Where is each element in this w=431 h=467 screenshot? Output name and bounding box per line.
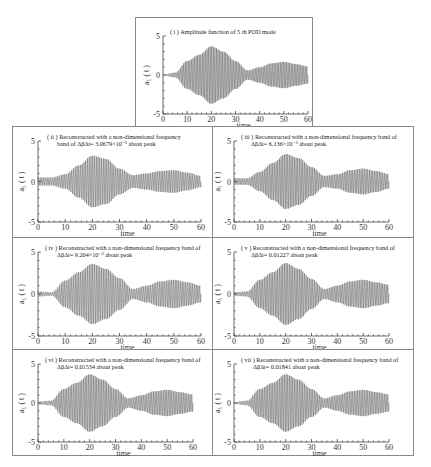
- x-tick-label: 40: [143, 337, 151, 346]
- x-tick-label: 50: [163, 443, 171, 452]
- y-axis-label: a₅ ( t ): [17, 171, 26, 191]
- y-tick-label: 0: [31, 178, 35, 187]
- x-axis-label: time: [312, 449, 327, 457]
- x-tick-label: 50: [170, 337, 178, 346]
- x-tick-label: 20: [282, 443, 290, 452]
- x-axis-label: time: [116, 449, 131, 457]
- x-tick-label: 40: [137, 443, 145, 452]
- x-tick-label: 0: [232, 443, 236, 452]
- x-tick-label: 0: [232, 337, 236, 346]
- y-tick-label: 5: [31, 137, 35, 146]
- x-tick-label: 60: [304, 115, 312, 124]
- signal-line: [163, 46, 308, 104]
- x-tick-label: 10: [256, 337, 264, 346]
- x-tick-label: 60: [197, 223, 205, 232]
- panel-v: ( v ) Reconstructed with a non-dimension…: [212, 237, 414, 350]
- signal-line: [38, 264, 201, 324]
- y-axis-label: a₅ ( t ): [17, 284, 26, 304]
- y-tick-label: 5: [227, 248, 231, 257]
- x-tick-label: 20: [282, 223, 290, 232]
- x-tick-label: 20: [207, 115, 215, 124]
- y-axis-label: a₅ ( t ): [142, 65, 151, 85]
- x-tick-label: 40: [333, 337, 341, 346]
- panel-i: ( i ) Amplitude function of 5 th POD mod…: [135, 17, 313, 127]
- y-tick-label: -5: [28, 438, 35, 447]
- x-tick-label: 40: [333, 443, 341, 452]
- x-tick-label: 40: [256, 115, 264, 124]
- y-tick-label: 0: [31, 399, 35, 408]
- x-tick-label: 50: [359, 443, 367, 452]
- plot-iii: 010203040506050-5timea₅ ( t ): [213, 127, 415, 239]
- panel-ii: ( ii ) Reconstructed with a non-dimensio…: [12, 126, 213, 238]
- y-tick-label: 0: [227, 399, 231, 408]
- signal-line: [234, 154, 389, 209]
- y-tick-label: 5: [31, 248, 35, 257]
- panel-iv: ( iv ) Reconstructed with a non-dimensio…: [12, 237, 213, 350]
- x-tick-label: 10: [183, 115, 191, 124]
- y-axis-label: a₅ ( t ): [17, 393, 26, 413]
- plot-vi: 010203040506050-5timea₅ ( t ): [13, 350, 214, 457]
- x-tick-label: 50: [170, 223, 178, 232]
- plot-vii: 010203040506050-5timea₅ ( t ): [213, 350, 415, 457]
- x-tick-label: 20: [282, 337, 290, 346]
- y-tick-label: 0: [227, 290, 231, 299]
- plot-i: 010203040506050-5timea₅ ( t ): [136, 18, 314, 128]
- x-tick-label: 0: [36, 223, 40, 232]
- y-axis-label: a₅ ( t ): [213, 171, 222, 191]
- panel-vi: ( vi ) Reconstructed with a non-dimensio…: [12, 349, 213, 456]
- y-tick-label: -5: [28, 218, 35, 227]
- y-axis-label: a₅ ( t ): [213, 284, 222, 304]
- y-tick-label: -5: [224, 218, 231, 227]
- y-tick-label: -5: [28, 332, 35, 341]
- y-tick-label: 5: [227, 360, 231, 369]
- x-tick-label: 10: [61, 223, 69, 232]
- x-tick-label: 50: [359, 337, 367, 346]
- x-tick-label: 10: [256, 443, 264, 452]
- x-tick-label: 20: [86, 443, 94, 452]
- signal-line: [234, 263, 389, 325]
- x-tick-label: 40: [143, 223, 151, 232]
- x-tick-label: 20: [88, 337, 96, 346]
- x-tick-label: 10: [256, 223, 264, 232]
- x-tick-label: 60: [385, 443, 393, 452]
- x-tick-label: 40: [333, 223, 341, 232]
- x-tick-label: 60: [197, 337, 205, 346]
- x-tick-label: 0: [36, 337, 40, 346]
- x-tick-label: 60: [385, 337, 393, 346]
- x-tick-label: 60: [189, 443, 197, 452]
- signal-line: [234, 374, 389, 432]
- y-tick-label: 0: [31, 290, 35, 299]
- x-tick-label: 60: [385, 223, 393, 232]
- plot-v: 010203040506050-5timea₅ ( t ): [213, 238, 415, 351]
- x-tick-label: 0: [232, 223, 236, 232]
- plot-ii: 010203040506050-5timea₅ ( t ): [13, 127, 214, 239]
- x-tick-label: 10: [60, 443, 68, 452]
- y-tick-label: -5: [224, 332, 231, 341]
- panel-vii: ( vii ) Reconstructed with a non-dimensi…: [212, 349, 414, 456]
- x-tick-label: 0: [36, 443, 40, 452]
- y-tick-label: 5: [227, 137, 231, 146]
- y-axis-label: a₅ ( t ): [213, 393, 222, 413]
- y-tick-label: 0: [156, 71, 160, 80]
- y-tick-label: -5: [224, 438, 231, 447]
- y-tick-label: -5: [153, 110, 160, 119]
- x-tick-label: 10: [61, 337, 69, 346]
- plot-iv: 010203040506050-5timea₅ ( t ): [13, 238, 214, 351]
- y-tick-label: 5: [156, 32, 160, 41]
- signal-line: [38, 156, 201, 208]
- x-tick-label: 50: [359, 223, 367, 232]
- signal-line: [38, 374, 193, 432]
- panel-iii: ( iii ) Reconstructed with a non-dimensi…: [212, 126, 414, 238]
- x-tick-label: 20: [88, 223, 96, 232]
- y-tick-label: 0: [227, 178, 231, 187]
- x-tick-label: 50: [280, 115, 288, 124]
- x-tick-label: 0: [161, 115, 165, 124]
- y-tick-label: 5: [31, 360, 35, 369]
